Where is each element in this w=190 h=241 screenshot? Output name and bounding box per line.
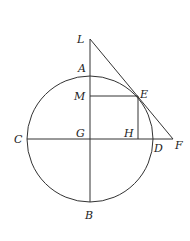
label-A: A <box>78 63 86 74</box>
label-C: C <box>14 134 22 145</box>
label-D: D <box>154 143 163 154</box>
diagram-canvas <box>0 0 190 241</box>
label-M: M <box>74 91 85 102</box>
label-F: F <box>175 140 183 151</box>
label-H: H <box>124 128 134 139</box>
geometry-diagram: L A M E C G H D F B <box>0 0 190 241</box>
label-B: B <box>85 210 93 221</box>
label-G: G <box>76 128 85 139</box>
segment-LF <box>90 39 173 139</box>
label-E: E <box>140 89 148 100</box>
label-L: L <box>77 34 84 45</box>
